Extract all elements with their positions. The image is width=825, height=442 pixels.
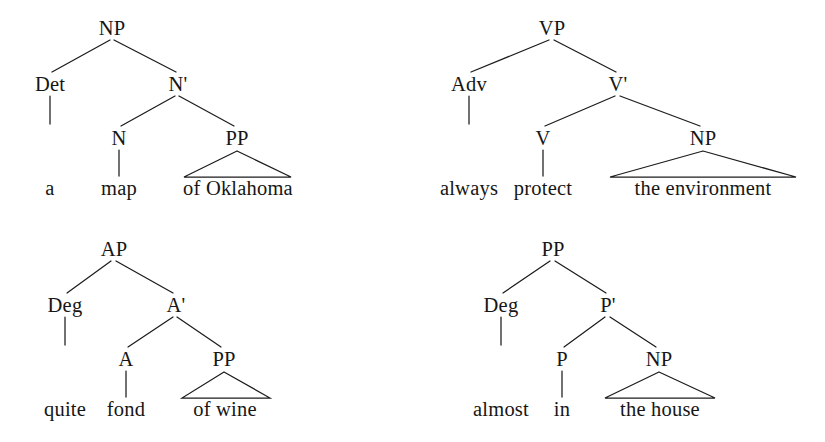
pp-tree-complement-label: NP <box>646 349 673 369</box>
ap-tree-complement-label: PP <box>212 349 235 369</box>
ap-tree-head-word: fond <box>107 399 145 419</box>
triangle-of-wine <box>182 372 270 398</box>
np-tree-bar-label: N' <box>169 74 188 94</box>
pp-tree-root-label: PP <box>541 239 564 259</box>
vp-tree-head-label: V <box>535 128 550 148</box>
pp-tree-specifier-word: almost <box>473 399 529 419</box>
branch-nbar-pp <box>179 96 234 126</box>
ap-tree-bar-label: A' <box>167 295 186 315</box>
triangle-the-environment <box>610 151 796 177</box>
tree-branch-lines <box>0 0 825 442</box>
branch-vbar-np <box>620 96 700 126</box>
ap-tree-specifier-label: Deg <box>48 295 83 315</box>
np-tree-specifier-label: Det <box>35 74 65 94</box>
vp-tree-complement-label: NP <box>690 128 717 148</box>
branch-pbar-np <box>610 317 656 347</box>
branch-nbar-n <box>121 96 175 126</box>
branch-pbar-p <box>564 317 605 347</box>
branch-np-nbar <box>114 40 176 72</box>
branch-ap-abar <box>116 261 173 293</box>
branch-np-det <box>52 40 110 72</box>
vp-tree-specifier-label: Adv <box>451 74 487 94</box>
pp-tree-bar-label: P' <box>600 295 616 315</box>
triangle-the-house <box>605 372 715 398</box>
ap-tree-complement-phrase: of wine <box>193 399 256 419</box>
ap-tree-specifier-word: quite <box>44 399 86 419</box>
triangle-of-oklahoma <box>184 151 291 177</box>
vp-tree-bar-label: V' <box>609 74 628 94</box>
pp-tree-head-label: P <box>556 349 568 369</box>
pp-tree-head-word: in <box>554 399 570 419</box>
branch-pp-deg <box>503 261 550 293</box>
ap-tree-root-label: AP <box>101 239 128 259</box>
np-tree-head-label: N <box>111 128 126 148</box>
branch-abar-a <box>128 317 173 347</box>
np-tree-specifier-word: a <box>45 178 54 198</box>
np-tree-head-word: map <box>101 178 137 198</box>
vp-tree-complement-phrase: the environment <box>635 178 772 198</box>
branch-vbar-v <box>545 96 615 126</box>
branch-vp-adv <box>471 40 549 72</box>
syntax-tree-figure: NP Det N' N PP a map of Oklahoma VP Adv … <box>0 0 825 442</box>
branch-abar-pp <box>177 317 221 347</box>
vp-tree-root-label: VP <box>539 18 566 38</box>
pp-tree-complement-phrase: the house <box>620 399 700 419</box>
pp-tree-specifier-label: Deg <box>484 295 519 315</box>
np-tree-root-label: NP <box>99 18 126 38</box>
np-tree-complement-label: PP <box>225 128 248 148</box>
np-tree-complement-phrase: of Oklahoma <box>183 178 293 198</box>
vp-tree-head-word: protect <box>514 178 572 198</box>
vp-tree-specifier-word: always <box>440 178 498 198</box>
branch-pp-pbar <box>555 261 606 293</box>
ap-tree-head-label: A <box>118 349 133 369</box>
branch-ap-deg <box>67 261 111 293</box>
branch-vp-vbar <box>554 40 616 72</box>
